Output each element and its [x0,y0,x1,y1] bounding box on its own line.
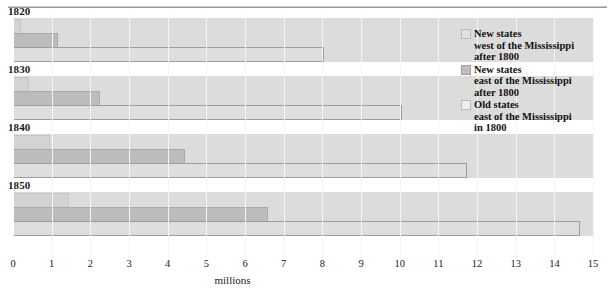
bar-1840-light [13,135,50,150]
group-label-1840: 1840 [8,121,30,133]
legend-item-0-line-0: New states [474,28,615,40]
x-axis: millions 0123456789101112131415 [0,258,615,292]
legend-item-2-line-0: Old states [474,99,615,111]
x-tick-14: 14 [549,258,560,269]
bar-1820-outline [13,47,324,62]
x-tick-5: 5 [204,258,209,269]
x-tick-11: 11 [433,258,443,269]
chart-legend: New stateswest of the Mississippiafter 1… [458,28,615,135]
group-label-1830: 1830 [8,63,30,75]
x-tick-12: 12 [472,258,483,269]
x-axis-title-text: millions [214,274,250,286]
bar-1840-outline [13,163,467,178]
x-tick-2: 2 [88,258,93,269]
legend-item-2-line-1: east of the Mississippi [474,111,615,123]
group-label-1850: 1850 [8,179,30,191]
top-divider [8,7,607,8]
x-tick-3: 3 [126,258,131,269]
bar-1820-medium [13,33,58,48]
x-tick-4: 4 [165,258,170,269]
x-tick-10: 10 [394,258,405,269]
legend-item-2-line-2: in 1800 [474,122,615,134]
x-tick-15: 15 [588,258,599,269]
x-tick-9: 9 [358,258,363,269]
legend-swatch-light-icon [461,29,471,39]
bar-1820-light [13,19,21,34]
x-tick-0: 0 [10,258,15,269]
x-axis-title: millions [0,274,615,286]
x-tick-1: 1 [49,258,54,269]
legend-swatch-medium-icon [461,65,471,75]
bar-1830-outline [13,105,402,120]
group-label-1820: 1820 [8,5,30,17]
x-tick-13: 13 [510,258,521,269]
legend-item-0-line-1: west of the Mississippi [474,40,615,52]
bar-1830-light [13,77,29,92]
bar-1850-outline [13,221,580,236]
legend-item-0-line-2: after 1800 [474,51,615,63]
bar-1840-medium [13,149,185,164]
bar-1850-medium [13,207,268,222]
bar-1830-medium [13,91,100,106]
bar-1850-light [13,193,69,208]
legend-item-1-line-2: after 1800 [474,87,615,99]
x-tick-6: 6 [242,258,247,269]
legend-item-1[interactable]: New stateseast of the Mississippiafter 1… [458,64,615,99]
x-tick-8: 8 [320,258,325,269]
legend-item-1-line-0: New states [474,64,615,76]
legend-item-2[interactable]: Old stateseast of the Mississippiin 1800 [458,99,615,134]
legend-item-1-line-1: east of the Mississippi [474,75,615,87]
legend-swatch-outline-icon [461,100,471,110]
legend-item-0[interactable]: New stateswest of the Mississippiafter 1… [458,28,615,63]
x-tick-7: 7 [281,258,286,269]
